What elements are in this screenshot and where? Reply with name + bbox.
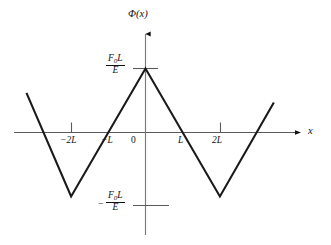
y-tick-label-negative-sign: −	[98, 198, 104, 209]
x-tick-label-minus-2L: −2L	[60, 136, 76, 146]
x-tick-label-minus-L: −L	[101, 136, 113, 146]
y-axis-label: Φ(x)	[128, 9, 148, 20]
y-tick-label-positive: F0L E	[106, 54, 125, 76]
plot-area	[0, 0, 331, 245]
x-tick-label-2L: 2L	[212, 136, 222, 146]
x-axis-label: x	[308, 126, 313, 137]
x-tick-label-L: L	[178, 136, 183, 146]
x-tick-label-zero: 0	[131, 136, 136, 146]
y-tick-label-negative: F0L E	[106, 191, 125, 213]
y-tick-label-positive-denominator: E	[106, 66, 125, 76]
figure-canvas: Φ(x) x −2L −L 0 L 2L F0L E − F0L E	[0, 0, 331, 245]
y-tick-label-negative-denominator: E	[106, 203, 125, 213]
